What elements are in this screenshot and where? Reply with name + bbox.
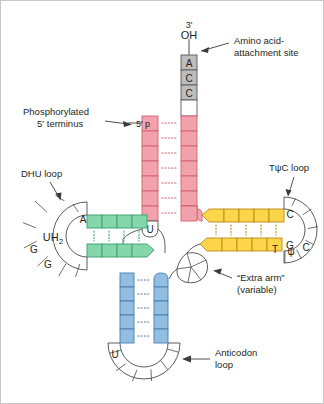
dhu-top-bp-1 <box>87 215 102 228</box>
tail-nucleotide-blank <box>181 100 197 116</box>
anticodon-label-line1: Anticodon <box>215 347 257 358</box>
anticodon-arrowhead <box>182 356 191 363</box>
dhu-bottom-bp-2 <box>102 244 117 257</box>
anticodon-right-bp-3 <box>154 301 168 315</box>
anticodon-right-bp-4 <box>154 315 168 329</box>
dhu-spoke-4 <box>23 223 36 228</box>
anticodon-right-bp-1-rounded <box>154 273 168 287</box>
tpsic-top-bp-4 <box>254 209 269 222</box>
tpsic-nucleotide-psi: ψ <box>287 246 294 257</box>
dhu-top-bp-3 <box>117 215 132 228</box>
anticodon-nucleotide-u: U <box>111 349 118 360</box>
tpsic-top-bp-3 <box>239 209 254 222</box>
amino-acid-site-label-line1: Amino acid- <box>234 35 284 46</box>
tpsic-arm-group: C G T ψ C TψC loop <box>200 162 318 263</box>
acceptor-stem-group <box>142 116 202 221</box>
tpsic-loop-arrowhead <box>286 189 292 197</box>
dhu-loop-arrowhead <box>56 193 62 201</box>
tpsic-top-bp-1-tapered <box>202 209 224 222</box>
tpsic-nucleotide-c1: C <box>286 209 293 220</box>
dhu-nucleotide-g1: G <box>30 244 38 255</box>
tpsic-bottom-bp-3 <box>237 238 252 251</box>
anticodon-label-line2: loop <box>215 359 233 370</box>
tpsic-nucleotide-c2: C <box>302 242 309 253</box>
phosphorylated-label-line2: 5' terminus <box>37 118 83 129</box>
acceptor-left-bp-2 <box>142 131 158 146</box>
acceptor-right-bp-6 <box>181 191 197 206</box>
extra-arm-label-line1: “Extra arm” <box>237 272 285 283</box>
dhu-top-bp-2 <box>102 215 117 228</box>
amino-acid-site-label-line2: attachment site <box>234 47 298 58</box>
anticodon-left-bp-2 <box>120 287 134 301</box>
five-prime-callout: Phosphorylated 5' terminus 5' p <box>23 106 150 129</box>
anticodon-left-bp-4 <box>120 315 134 329</box>
tail-label-c2: C <box>185 88 192 99</box>
extra-arm-label-line2: (variable) <box>237 284 277 295</box>
extra-arm-lobe <box>177 253 208 283</box>
tpsic-bottom-bp-1-tapered <box>200 238 222 251</box>
acceptor-left-bp-4 <box>142 161 158 176</box>
dhu-spoke-3 <box>35 201 47 212</box>
acceptor-left-bp-5 <box>142 176 158 191</box>
acceptor-left-bp-3 <box>142 146 158 161</box>
tail-label-c1: C <box>185 73 192 84</box>
dhu-nucleotide-g2: G <box>44 259 52 270</box>
tpsic-bottom-bp-4 <box>252 238 267 251</box>
tpsic-top-bp-2 <box>224 209 239 222</box>
dhu-loop-label: DHU loop <box>21 168 62 179</box>
five-prime-p-label: 5' p <box>136 119 150 129</box>
tpsic-nucleotide-t: T <box>272 244 278 255</box>
dhu-spoke-7 <box>59 264 66 276</box>
anticodon-right-bp-5 <box>154 329 168 343</box>
dhu-nucleotide-a: A <box>80 214 87 225</box>
anticodon-arm-group: U Anticodon loop <box>108 273 257 381</box>
amino-acid-arrowhead <box>201 47 209 53</box>
acceptor-right-bp-2 <box>181 131 197 146</box>
anticodon-right-bp-2 <box>154 287 168 301</box>
acc-tail-group: A C C <box>181 39 197 116</box>
acceptor-right-bp-5 <box>181 176 197 191</box>
acceptor-right-bp-7 <box>181 206 197 221</box>
anticodon-left-bp-1 <box>120 273 134 287</box>
tpsic-top-bp-5 <box>269 209 284 222</box>
dhu-bottom-bp-1 <box>87 244 102 257</box>
acceptor-right-bp-4 <box>181 161 197 176</box>
acceptor-right-bp-1 <box>181 116 197 131</box>
trna-cloverleaf-diagram: A C C 3' OH Amino acid- attachment site <box>1 1 324 404</box>
five-prime-arrowhead <box>123 121 132 127</box>
oh-label: OH <box>181 29 198 41</box>
extra-arm-to-tpsic-connector <box>187 244 200 253</box>
dhu-bottom-bp-3 <box>117 244 132 257</box>
extra-arm-to-anticodon-connector <box>169 269 177 279</box>
amino-acid-site-callout: Amino acid- attachment site <box>201 35 298 58</box>
phosphorylated-label-line1: Phosphorylated <box>23 106 89 117</box>
acceptor-right-bp-3 <box>181 146 197 161</box>
dhu-bottom-bp-4-angled <box>132 244 154 257</box>
anticodon-loop-ring <box>108 343 180 381</box>
anticodon-left-bp-3 <box>120 301 134 315</box>
anticodon-loop-annulus <box>108 343 180 379</box>
junction-u-label: U <box>146 224 153 235</box>
dhu-top-bp-4 <box>132 215 147 228</box>
tpsic-bottom-bp-2 <box>222 238 237 251</box>
extra-arm-group: “Extra arm” (variable) <box>169 244 285 295</box>
tail-label-a: A <box>186 58 193 69</box>
anticodon-left-bp-5 <box>120 329 134 343</box>
acceptor-left-bp-6 <box>142 191 158 206</box>
tpsic-loop-label: TψC loop <box>269 162 309 173</box>
junction-to-anticodon-connector <box>158 229 165 253</box>
dhu-arm-group: A G G UH2 DHU loop <box>21 168 154 277</box>
figure-canvas: A C C 3' OH Amino acid- attachment site <box>0 0 324 404</box>
